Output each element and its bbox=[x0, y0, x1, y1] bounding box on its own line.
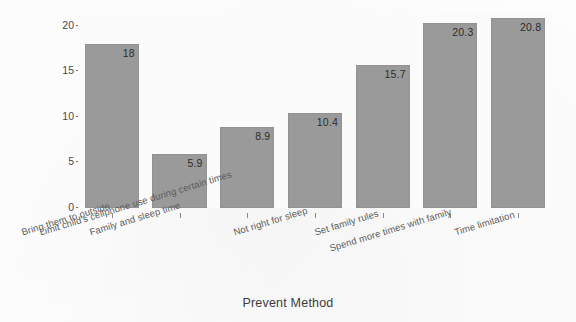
x-axis-tick-label: Spend more times with family bbox=[328, 206, 453, 254]
x-axis-tick-label: Not right for sleep bbox=[232, 205, 309, 238]
bar[interactable] bbox=[85, 44, 139, 208]
x-axis-tick-mark bbox=[518, 213, 519, 218]
bar-group[interactable]: 20.8 bbox=[491, 12, 545, 208]
y-axis-tick: 20 bbox=[0, 19, 74, 33]
y-axis-tick-label: 15 bbox=[62, 64, 74, 76]
x-axis-tick-mark bbox=[383, 213, 384, 218]
y-axis-tick: 10 bbox=[0, 110, 74, 124]
x-axis-tick-mark bbox=[247, 213, 248, 218]
y-axis-tick-label: 5 bbox=[68, 155, 74, 167]
x-axis-tick-mark bbox=[180, 213, 181, 218]
bar[interactable] bbox=[356, 65, 410, 208]
y-axis-tick: 15 bbox=[0, 64, 74, 78]
bar-value-label: 8.9 bbox=[255, 130, 270, 142]
bar-group[interactable]: 20.3 bbox=[423, 12, 477, 208]
bar-chart-figure: Percent 05101520 185.98.910.415.720.320.… bbox=[0, 0, 576, 322]
x-axis-tick-mark bbox=[315, 213, 316, 218]
bar-value-label: 20.8 bbox=[520, 21, 541, 33]
bar-value-label: 10.4 bbox=[317, 116, 338, 128]
bar-group[interactable]: 18 bbox=[85, 12, 139, 208]
bar-value-label: 18 bbox=[123, 47, 135, 59]
x-axis-tick-label: Time limitation bbox=[453, 209, 516, 238]
y-axis-tick-label: 10 bbox=[62, 110, 74, 122]
bar-value-label: 5.9 bbox=[187, 157, 202, 169]
bar-value-label: 15.7 bbox=[385, 68, 406, 80]
y-axis-tick: 5 bbox=[0, 155, 74, 169]
bar[interactable] bbox=[423, 23, 477, 208]
plot-area: 185.98.910.415.720.320.8 bbox=[78, 12, 552, 208]
bar-group[interactable]: 15.7 bbox=[356, 12, 410, 208]
bar-group[interactable]: 10.4 bbox=[288, 12, 342, 208]
y-axis-tick-label: 20 bbox=[62, 19, 74, 31]
bar-value-label: 20.3 bbox=[452, 26, 473, 38]
bar[interactable] bbox=[491, 18, 545, 208]
x-axis-title: Prevent Method bbox=[0, 296, 576, 310]
